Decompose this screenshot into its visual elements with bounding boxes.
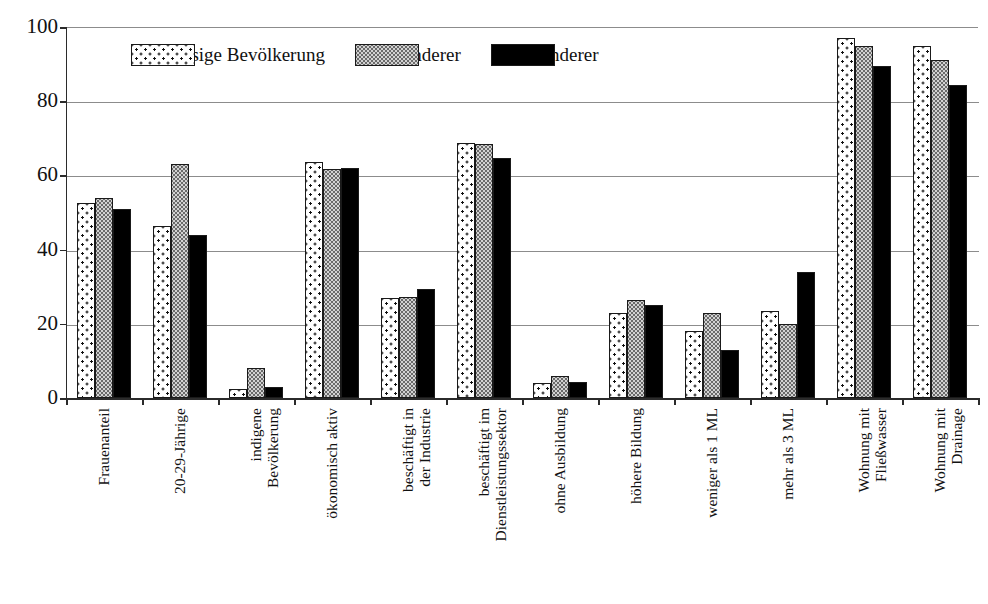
- bar: [913, 46, 931, 398]
- bar: [399, 297, 417, 398]
- x-tick-mark: [142, 398, 144, 405]
- x-category-label: ohne Ausbildung: [551, 408, 568, 598]
- bar: [779, 324, 797, 398]
- bar-group: [913, 27, 967, 398]
- x-tick-mark: [218, 398, 220, 405]
- legend-entry: Zuwanderer: [355, 44, 491, 66]
- bar-group: [761, 27, 815, 398]
- bar-group: [77, 27, 131, 398]
- x-tick-mark: [66, 398, 68, 405]
- bar: [627, 300, 645, 398]
- bar: [189, 235, 207, 398]
- bar: [171, 164, 189, 398]
- bar: [113, 209, 131, 398]
- bar: [381, 298, 399, 398]
- bar: [855, 46, 873, 398]
- bar: [797, 272, 815, 398]
- bar-group: [153, 27, 207, 398]
- x-category-label: indigene Bevölkerung: [247, 408, 281, 598]
- x-tick-mark: [826, 398, 828, 405]
- y-tick-label: 40: [12, 239, 58, 260]
- y-tick-mark: [60, 250, 67, 252]
- bar: [457, 143, 475, 398]
- x-category-label: weniger als 1 ML: [703, 408, 720, 598]
- x-tick-mark: [294, 398, 296, 405]
- bar: [323, 169, 341, 398]
- x-category-label: beschäftigt im Dienstleistungssektor: [475, 408, 509, 598]
- y-tick-label: 100: [12, 16, 58, 37]
- bar: [533, 383, 551, 398]
- bar: [685, 331, 703, 398]
- y-tick-mark: [60, 175, 67, 177]
- bar: [551, 376, 569, 398]
- y-tick-mark: [60, 101, 67, 103]
- bar: [475, 144, 493, 399]
- bar: [95, 198, 113, 398]
- y-tick-mark: [60, 27, 67, 29]
- x-category-label: höhere Bildung: [627, 408, 644, 598]
- bar-group: [837, 27, 891, 398]
- x-tick-mark: [370, 398, 372, 405]
- x-tick-mark: [902, 398, 904, 405]
- bar-group: [305, 27, 359, 398]
- bar: [609, 313, 627, 398]
- bar: [153, 226, 171, 399]
- bar: [703, 313, 721, 398]
- bar: [77, 203, 95, 398]
- x-category-label: ökonomisch aktiv: [323, 408, 340, 598]
- legend-entry: Ansässige Bevölkerung: [131, 44, 355, 66]
- bar: [837, 38, 855, 398]
- x-category-label: Wohnung mit Drainage: [931, 408, 965, 598]
- bar-group: [381, 27, 435, 398]
- y-tick-label: 60: [12, 164, 58, 185]
- bar-group: [609, 27, 663, 398]
- x-tick-mark: [446, 398, 448, 405]
- bar: [247, 368, 265, 398]
- x-tick-mark: [750, 398, 752, 405]
- bar-group: [533, 27, 587, 398]
- x-tick-mark: [598, 398, 600, 405]
- bar-group: [685, 27, 739, 398]
- bar: [305, 162, 323, 398]
- y-axis-labels: 020406080100: [0, 0, 58, 604]
- x-category-label: beschäftigt in der Industrie: [399, 408, 433, 598]
- bar: [341, 168, 359, 398]
- legend-swatch: [491, 44, 555, 66]
- x-category-label: Frauenanteil: [95, 408, 112, 598]
- x-category-label: mehr als 3 ML: [779, 408, 796, 598]
- legend-entry: Abwanderer: [491, 44, 629, 66]
- bar: [569, 382, 587, 398]
- x-category-label: 20-29-Jährige: [171, 408, 188, 598]
- bar: [265, 387, 283, 398]
- x-category-label: Wohnung mit Fließwasser: [855, 408, 889, 598]
- bar: [931, 60, 949, 398]
- bar-group: [457, 27, 511, 398]
- bar: [721, 350, 739, 398]
- bar: [873, 66, 891, 398]
- legend-swatch: [131, 44, 195, 66]
- y-tick-mark: [60, 324, 67, 326]
- bar: [417, 289, 435, 398]
- x-tick-mark: [522, 398, 524, 405]
- chart-legend: Ansässige BevölkerungZuwandererAbwandere…: [131, 44, 629, 66]
- y-tick-label: 0: [12, 387, 58, 408]
- bar: [761, 311, 779, 398]
- bar-group: [229, 27, 283, 398]
- x-tick-mark: [978, 398, 980, 405]
- legend-swatch: [355, 44, 419, 66]
- y-tick-label: 20: [12, 313, 58, 334]
- chart-page: 020406080100 Frauenanteil20-29-Jährigein…: [0, 0, 988, 604]
- y-tick-label: 80: [12, 90, 58, 111]
- x-tick-mark: [674, 398, 676, 405]
- bar: [645, 305, 663, 398]
- bar: [229, 389, 247, 398]
- bars-layer: [66, 27, 978, 398]
- bar: [949, 85, 967, 398]
- bar: [493, 158, 511, 398]
